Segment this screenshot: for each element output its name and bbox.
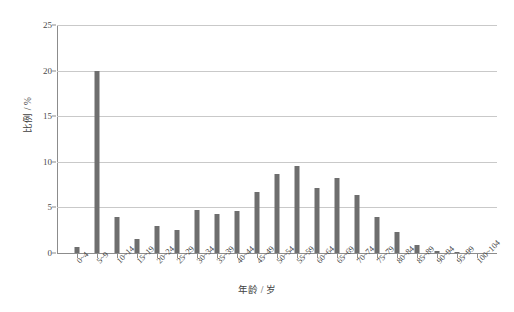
y-axis-tick-label: 20 xyxy=(43,66,52,76)
bar xyxy=(235,211,240,253)
y-axis-tick-mark xyxy=(52,25,56,26)
y-axis-tick-mark xyxy=(52,253,56,254)
bar xyxy=(95,71,100,253)
bar xyxy=(335,178,340,253)
bar xyxy=(315,188,320,253)
bar xyxy=(375,217,380,253)
y-axis-tick-label: 25 xyxy=(43,20,52,30)
bar-chart-figure: 比例 / % 0510152025 0~45~910~1415~1920~242… xyxy=(0,0,514,312)
bar xyxy=(195,210,200,253)
y-axis-tick-label: 10 xyxy=(43,157,52,167)
bar xyxy=(215,214,220,253)
y-axis-tick-mark xyxy=(52,207,56,208)
bar xyxy=(275,174,280,253)
x-axis-title: 年龄 / 岁 xyxy=(0,282,514,296)
y-axis-tick-mark xyxy=(52,116,56,117)
y-axis-tick-mark xyxy=(52,70,56,71)
y-axis-tick-label: 15 xyxy=(43,111,52,121)
bar xyxy=(255,192,260,253)
bar-series xyxy=(57,25,497,253)
bar xyxy=(295,166,300,253)
y-axis-tick-mark xyxy=(52,161,56,162)
bar xyxy=(455,252,460,253)
y-axis-tick-labels: 0510152025 xyxy=(0,25,52,253)
bar xyxy=(115,217,120,253)
bar xyxy=(355,195,360,253)
bar xyxy=(75,247,80,253)
